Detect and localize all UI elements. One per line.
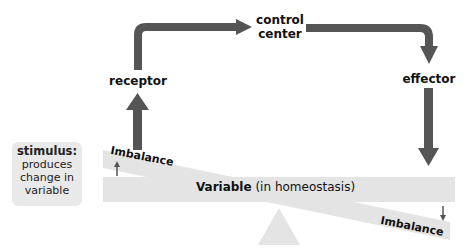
- arrowhead-up-icon: [126, 93, 149, 110]
- stimulus-box: stimulus: produces change in variable: [12, 142, 82, 206]
- variable-bold: Variable: [196, 180, 252, 194]
- receptor-label: receptor: [106, 74, 170, 88]
- fulcrum: [258, 208, 300, 245]
- small-down-arrow-icon: [440, 215, 446, 221]
- control-center-line1: control: [252, 13, 308, 27]
- stimulus-line1: produces: [12, 158, 82, 171]
- control-center-line2: center: [252, 27, 308, 41]
- arrow-to-receptor: [133, 108, 142, 150]
- arrowhead-right-icon: [236, 19, 252, 35]
- effector-label: effector: [398, 72, 460, 86]
- control-center-label: control center: [252, 13, 308, 41]
- arrowhead-down-icon: [418, 148, 439, 166]
- arrowhead-down-icon: [420, 46, 438, 64]
- variable-label: Variable (in homeostasis): [103, 180, 448, 194]
- stimulus-line3: variable: [12, 184, 82, 197]
- variable-rest: (in homeostasis): [252, 180, 355, 194]
- stimulus-line2: change in: [12, 171, 82, 184]
- diagram-canvas: [0, 0, 467, 251]
- stimulus-title: stimulus:: [12, 145, 82, 158]
